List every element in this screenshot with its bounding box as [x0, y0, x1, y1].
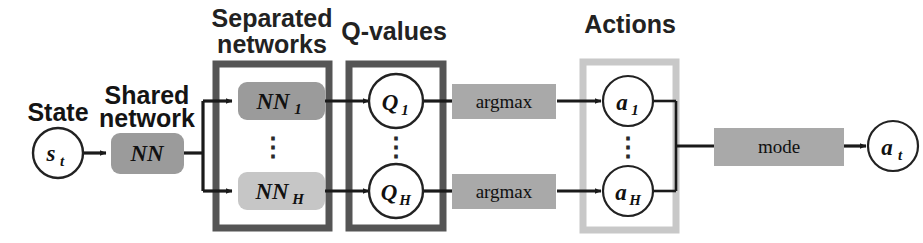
ellipsis-actions: ⋮: [615, 132, 641, 162]
label-separated-networks-line2: networks: [217, 30, 327, 58]
node-action-1-label: a: [616, 90, 628, 115]
ellipsis-q-values: ⋮: [383, 132, 409, 162]
architecture-diagram: s t NN NN 1 NN H ⋮ Q 1 Q H ⋮ argmax argm…: [0, 0, 923, 243]
node-argmax-h-label: argmax: [476, 181, 533, 202]
node-action-h-circle: [603, 166, 653, 216]
label-actions: Actions: [584, 10, 676, 38]
node-mode-label: mode: [758, 136, 800, 157]
label-separated-networks-line1: Separated: [212, 4, 333, 32]
node-q-1-label: Q: [382, 90, 399, 115]
node-branch-nn-1-label: NN: [255, 89, 291, 114]
node-q-h-sub: H: [398, 192, 412, 208]
node-state-label: s: [46, 141, 56, 166]
diagram-canvas: s t NN NN 1 NN H ⋮ Q 1 Q H ⋮ argmax argm…: [0, 0, 923, 243]
node-action-h-label: a: [615, 180, 627, 205]
node-action-output-label: a: [881, 135, 893, 160]
node-branch-nn-h-label: NN: [254, 179, 290, 204]
node-state-circle: [33, 128, 83, 178]
node-action-1-sub: 1: [631, 102, 639, 118]
node-branch-nn-1-sub: 1: [294, 101, 302, 117]
node-q-1-sub: 1: [401, 102, 409, 118]
node-shared-nn-label: NN: [129, 141, 165, 166]
node-argmax-1-label: argmax: [476, 91, 533, 112]
label-state: State: [27, 98, 88, 126]
node-branch-nn-h-sub: H: [291, 191, 305, 207]
node-action-h-sub: H: [628, 192, 642, 208]
node-action-output-circle: [868, 121, 918, 171]
node-q-h-label: Q: [381, 180, 398, 205]
label-q-values: Q-values: [341, 17, 447, 45]
node-action-1-circle: [603, 76, 653, 126]
ellipsis-separated-networks: ⋮: [260, 132, 286, 162]
label-shared-network-line2: network: [99, 104, 195, 132]
